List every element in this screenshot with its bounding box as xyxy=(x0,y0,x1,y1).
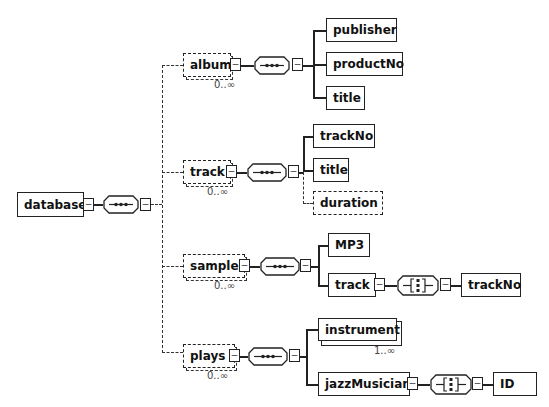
sequence-compositor-icon xyxy=(254,56,290,75)
cardinality-label: 0..∞ xyxy=(207,186,228,197)
element-label: plays xyxy=(190,349,225,363)
collapse-toggle-icon[interactable]: − xyxy=(440,278,451,291)
collapse-toggle-icon[interactable]: − xyxy=(288,165,299,178)
element-label: publisher xyxy=(333,23,397,37)
element-label: database xyxy=(24,198,87,212)
collapse-toggle-icon[interactable]: − xyxy=(289,349,300,362)
collapse-toggle-icon[interactable]: − xyxy=(472,377,483,390)
element-album[interactable]: album xyxy=(183,53,231,77)
choice-compositor-icon xyxy=(397,275,439,296)
sequence-compositor-icon xyxy=(103,195,139,214)
cardinality-label: 0..∞ xyxy=(214,280,235,291)
element-duration[interactable]: duration xyxy=(313,191,383,215)
collapse-toggle-icon[interactable]: − xyxy=(226,165,237,178)
collapse-toggle-icon[interactable]: − xyxy=(407,377,418,390)
element-track[interactable]: track xyxy=(183,160,231,184)
element-trackNo[interactable]: trackNo xyxy=(461,273,521,297)
element-plays[interactable]: plays xyxy=(183,344,235,368)
element-label: title xyxy=(333,91,361,105)
element-label: ID xyxy=(500,377,514,391)
collapse-toggle-icon[interactable]: − xyxy=(374,278,385,291)
sequence-compositor-icon xyxy=(248,347,288,366)
element-productNo[interactable]: productNo xyxy=(326,52,403,76)
element-MP3[interactable]: MP3 xyxy=(328,233,370,257)
element-publisher[interactable]: publisher xyxy=(326,18,397,42)
collapse-toggle-icon[interactable]: − xyxy=(140,198,151,211)
element-trackNo[interactable]: trackNo xyxy=(313,124,375,148)
element-label: trackNo xyxy=(468,278,521,292)
collapse-toggle-icon[interactable]: − xyxy=(300,259,311,272)
element-label: trackNo xyxy=(320,129,373,143)
sequence-compositor-icon xyxy=(247,163,287,182)
sequence-compositor-icon xyxy=(260,257,300,276)
element-instrument[interactable]: instrument xyxy=(318,318,397,341)
element-ID[interactable]: ID xyxy=(493,372,537,396)
element-track[interactable]: track xyxy=(328,273,376,297)
element-label: album xyxy=(190,58,232,72)
element-label: track xyxy=(190,165,225,179)
element-database[interactable]: database xyxy=(17,192,84,217)
cardinality-label: 0..∞ xyxy=(214,79,235,90)
element-sample[interactable]: sample xyxy=(183,254,245,278)
element-label: instrument xyxy=(325,323,400,337)
element-label: sample xyxy=(190,259,239,273)
element-label: MP3 xyxy=(335,238,364,252)
element-title[interactable]: title xyxy=(313,158,349,182)
element-label: jazzMusician xyxy=(325,377,411,391)
choice-compositor-icon xyxy=(430,374,472,395)
element-label: productNo xyxy=(333,57,404,71)
element-label: title xyxy=(320,163,348,177)
element-jazzMusician[interactable]: jazzMusician xyxy=(318,372,410,396)
collapse-toggle-icon[interactable]: − xyxy=(230,58,241,71)
element-title[interactable]: title xyxy=(326,86,365,110)
collapse-toggle-icon[interactable]: − xyxy=(292,58,303,71)
collapse-toggle-icon[interactable]: − xyxy=(83,198,94,211)
element-label: track xyxy=(335,278,370,292)
collapse-toggle-icon[interactable]: − xyxy=(239,259,250,272)
collapse-toggle-icon[interactable]: − xyxy=(229,349,240,362)
cardinality-label: 0..∞ xyxy=(207,370,228,381)
element-label: duration xyxy=(320,196,378,210)
cardinality-label: 1..∞ xyxy=(374,345,395,356)
